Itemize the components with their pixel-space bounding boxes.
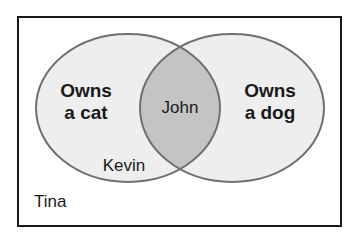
set-cat-label-line2: a cat xyxy=(64,102,108,123)
set-cat-member-label: Kevin xyxy=(103,156,146,175)
venn-diagram: Owns a cat Owns a dog John Kevin Tina xyxy=(0,0,359,236)
set-cat-label-line1: Owns xyxy=(60,80,112,101)
set-dog-label-line1: Owns xyxy=(244,80,296,101)
intersection-label: John xyxy=(162,98,199,117)
universe-label: Tina xyxy=(34,192,67,211)
set-dog-label-line2: a dog xyxy=(245,102,296,123)
